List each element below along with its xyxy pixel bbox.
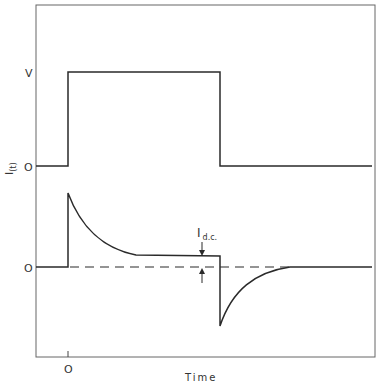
x-axis-label: Time xyxy=(184,372,217,383)
y-axis-label: I(t) xyxy=(3,162,18,175)
plot-frame xyxy=(36,5,375,357)
lower-level-zero-label: O xyxy=(24,262,33,275)
y-axis-label-sub: (t) xyxy=(9,162,18,171)
x-tick-zero-label: O xyxy=(64,363,73,376)
idc-annotation-main: I xyxy=(197,226,201,240)
voltage-step-trace xyxy=(36,72,372,166)
idc-arrow-up-icon xyxy=(199,268,205,274)
current-response-trace xyxy=(36,193,372,326)
upper-level-zero-label: O xyxy=(24,161,33,174)
upper-level-high-label: V xyxy=(25,67,33,80)
idc-annotation-sub: d.c. xyxy=(203,233,218,242)
pulse-response-figure: V O O O Time I(t) Id.c. xyxy=(0,0,385,383)
idc-annotation: Id.c. xyxy=(197,226,217,242)
